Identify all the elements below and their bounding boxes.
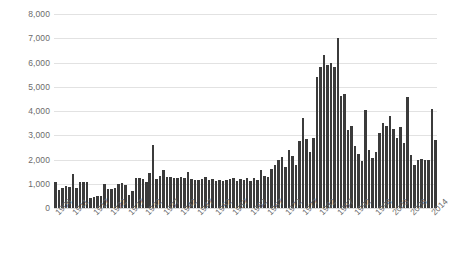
bar [316, 77, 319, 208]
bar [337, 38, 340, 208]
bar [333, 67, 336, 208]
bar [434, 140, 437, 208]
bar [364, 110, 367, 208]
plot-area [54, 14, 437, 208]
bar [371, 158, 374, 208]
y-tick-label: 8,000 [6, 9, 50, 19]
bar [54, 182, 57, 208]
bar [326, 65, 329, 208]
bar [323, 55, 326, 208]
bar [392, 129, 395, 208]
bar [330, 63, 333, 209]
bar [302, 118, 305, 208]
bar [427, 160, 430, 208]
bar [406, 97, 409, 208]
bar [399, 127, 402, 208]
bar-series [54, 14, 437, 208]
bar [354, 146, 357, 208]
y-tick-label: 2,000 [6, 155, 50, 165]
bar [288, 150, 291, 208]
y-tick-label: 5,000 [6, 82, 50, 92]
bar [357, 154, 360, 208]
y-tick-label: 6,000 [6, 58, 50, 68]
bar [343, 94, 346, 208]
bar [319, 67, 322, 208]
bar [389, 116, 392, 208]
bar [378, 133, 381, 208]
bar [305, 139, 308, 208]
bar [431, 109, 434, 208]
bar [350, 126, 353, 208]
y-tick-label: 7,000 [6, 33, 50, 43]
bar [375, 152, 378, 208]
y-tick-label: 4,000 [6, 106, 50, 116]
bar [410, 155, 413, 208]
y-tick-label: 3,000 [6, 130, 50, 140]
bar [382, 123, 385, 208]
y-tick-label: 1,000 [6, 179, 50, 189]
y-tick-label: 0 [6, 203, 50, 213]
bar [396, 138, 399, 208]
x-axis: 1906191119171922192719321937194219471952… [54, 210, 437, 256]
bar [340, 96, 343, 208]
